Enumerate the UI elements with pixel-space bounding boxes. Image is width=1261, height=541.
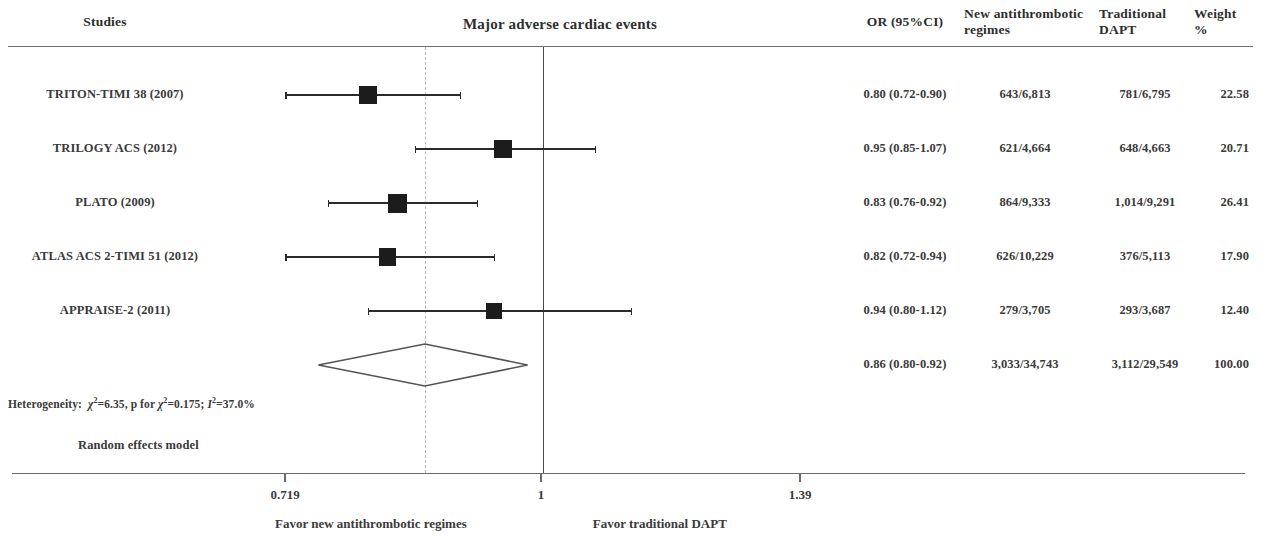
- cell-or: 0.83 (0.76-0.92): [845, 195, 965, 210]
- column-header-traditional-dapt-line2: DAPT: [1095, 22, 1195, 38]
- point-estimate-marker: [486, 303, 502, 319]
- axis-tick-label: 1.39: [760, 487, 840, 503]
- confidence-interval-cap: [368, 308, 369, 315]
- cell-events-new: 279/3,705: [965, 303, 1085, 318]
- cell-weight: 17.90: [1193, 249, 1249, 264]
- axis-tick: [799, 473, 800, 482]
- cell-events-traditional: 1,014/9,291: [1085, 195, 1205, 210]
- study-label: TRILOGY ACS (2012): [0, 141, 230, 156]
- confidence-interval-cap: [328, 200, 329, 207]
- axis-label-favor-left: Favor new antithrombotic regimes: [275, 516, 467, 532]
- point-estimate-marker: [359, 86, 377, 104]
- point-estimate-marker: [379, 248, 396, 265]
- confidence-interval-cap: [595, 146, 596, 153]
- heterogeneity-i2-value: 37.0%: [223, 398, 255, 410]
- cell-weight: 22.58: [1193, 87, 1249, 102]
- column-header-studies: Studies: [30, 14, 180, 30]
- cell-events-new: 643/6,813: [965, 87, 1085, 102]
- cell-events-traditional: 648/4,663: [1085, 141, 1205, 156]
- confidence-interval-cap: [494, 254, 495, 261]
- column-header-weight-line1: Weight: [1190, 6, 1250, 22]
- axis-tick: [284, 473, 285, 482]
- model-label: Random effects model: [78, 438, 199, 453]
- heterogeneity-label: Heterogeneity:: [8, 398, 82, 410]
- header-divider: [8, 46, 1253, 47]
- cell-weight: 26.41: [1193, 195, 1249, 210]
- heterogeneity-values: χ2=6.35, p for χ2=0.175; I2=37.0%: [82, 398, 255, 410]
- null-effect-line: [543, 47, 544, 473]
- study-label: APPRAISE-2 (2011): [0, 303, 230, 318]
- confidence-interval-cap: [285, 254, 286, 261]
- summary-effect-dashed-line: [425, 47, 426, 473]
- column-header-traditional-dapt-line1: Traditional: [1095, 6, 1195, 22]
- summary-diamond: [0, 0, 1261, 541]
- column-header-or: OR (95%CI): [845, 14, 965, 30]
- column-header-new-regimes: New antithrombotic regimes: [960, 6, 1110, 38]
- cell-events-new: 864/9,333: [965, 195, 1085, 210]
- axis-tick-label: 1: [501, 487, 581, 503]
- cell-or: 0.82 (0.72-0.94): [845, 249, 965, 264]
- column-header-traditional-dapt: Traditional DAPT: [1095, 6, 1195, 38]
- cell-weight: 12.40: [1193, 303, 1249, 318]
- cell-or: 0.80 (0.72-0.90): [845, 87, 965, 102]
- cell-events-traditional: 376/5,113: [1085, 249, 1205, 264]
- point-estimate-marker: [388, 194, 407, 213]
- study-label: PLATO (2009): [0, 195, 230, 210]
- confidence-interval-cap: [460, 92, 461, 99]
- page-title: Major adverse cardiac events: [360, 16, 760, 32]
- column-header-new-regimes-line1: New antithrombotic: [960, 6, 1110, 22]
- cell-or-summary: 0.86 (0.80-0.92): [845, 357, 965, 372]
- axis-label-favor-right: Favor traditional DAPT: [593, 516, 727, 532]
- confidence-interval-cap: [285, 92, 286, 99]
- confidence-interval-cap: [477, 200, 478, 207]
- cell-weight: 20.71: [1193, 141, 1249, 156]
- column-header-weight-line2: %: [1190, 22, 1250, 38]
- cell-or: 0.95 (0.85-1.07): [845, 141, 965, 156]
- x-axis-line: [12, 473, 1245, 474]
- confidence-interval-cap: [631, 308, 632, 315]
- point-estimate-marker: [494, 140, 512, 158]
- study-label: TRITON-TIMI 38 (2007): [0, 87, 230, 102]
- cell-events-new-summary: 3,033/34,743: [965, 357, 1085, 372]
- confidence-interval-cap: [415, 146, 416, 153]
- cell-events-new: 621/4,664: [965, 141, 1085, 156]
- cell-weight-summary: 100.00: [1193, 357, 1249, 372]
- axis-tick: [540, 473, 541, 482]
- axis-tick-label: 0.719: [245, 487, 325, 503]
- column-header-new-regimes-line2: regimes: [960, 22, 1110, 38]
- cell-events-traditional-summary: 3,112/29,549: [1085, 357, 1205, 372]
- study-label: ATLAS ACS 2-TIMI 51 (2012): [0, 249, 230, 264]
- column-header-weight: Weight %: [1190, 6, 1250, 38]
- cell-events-new: 626/10,229: [965, 249, 1085, 264]
- forest-plot-canvas: Studies Major adverse cardiac events OR …: [0, 0, 1261, 541]
- heterogeneity-statistics: Heterogeneity: χ2=6.35, p for χ2=0.175; …: [8, 396, 255, 410]
- heterogeneity-chi2-value: 6.35: [104, 398, 125, 410]
- cell-events-traditional: 781/6,795: [1085, 87, 1205, 102]
- cell-or: 0.94 (0.80-1.12): [845, 303, 965, 318]
- cell-events-traditional: 293/3,687: [1085, 303, 1205, 318]
- heterogeneity-p-value: 0.175: [174, 398, 200, 410]
